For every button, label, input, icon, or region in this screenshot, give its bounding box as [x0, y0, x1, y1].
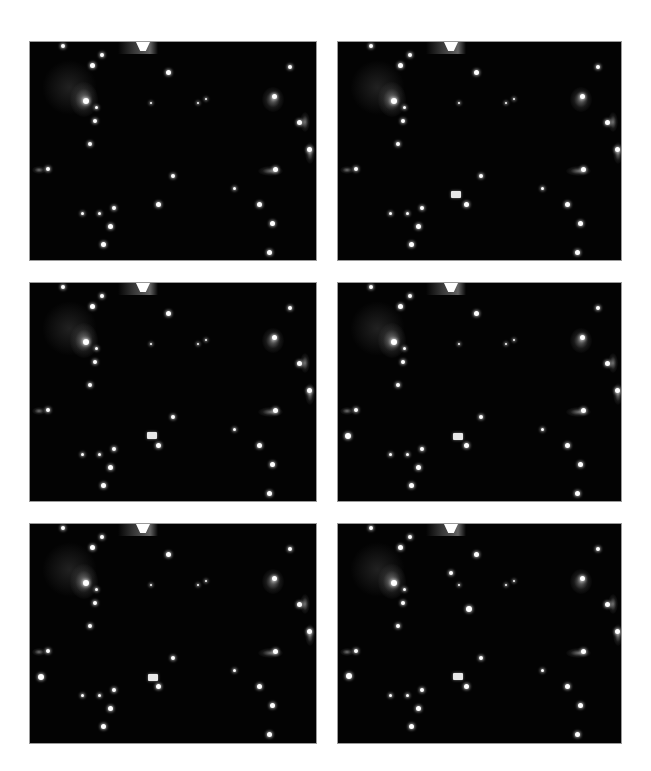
- light-spot: [297, 361, 302, 366]
- light-spot: [112, 206, 116, 210]
- light-spot: [108, 706, 113, 711]
- image-panel-5: [30, 524, 316, 743]
- light-spot: [396, 383, 400, 387]
- light-spot: [100, 535, 104, 539]
- light-spot: [406, 694, 409, 697]
- light-spot: [98, 212, 101, 215]
- light-spot: [270, 703, 275, 708]
- light-spot: [108, 224, 113, 229]
- light-spot: [112, 447, 116, 451]
- light-spot: [233, 428, 236, 431]
- light-spot: [101, 483, 106, 488]
- light-spot: [406, 453, 409, 456]
- extra-light-spot: [147, 432, 157, 439]
- extra-light-spot: [453, 673, 463, 680]
- light-spot: [458, 102, 460, 104]
- light-glow: [613, 383, 621, 405]
- light-spot: [273, 408, 278, 413]
- light-spot: [83, 580, 89, 586]
- light-spot: [90, 63, 95, 68]
- light-spot: [272, 576, 277, 581]
- light-glow: [570, 87, 592, 112]
- extra-light-spot: [148, 674, 158, 681]
- light-glow: [566, 166, 591, 176]
- light-spot: [267, 250, 272, 255]
- light-spot: [505, 343, 507, 345]
- light-spot: [108, 465, 113, 470]
- light-spot: [580, 94, 585, 99]
- light-spot: [565, 443, 570, 448]
- light-spot: [403, 106, 406, 109]
- light-spot: [409, 724, 414, 729]
- light-spot: [273, 167, 278, 172]
- light-glow: [258, 166, 283, 176]
- light-spot: [101, 242, 106, 247]
- light-spot: [605, 602, 610, 607]
- light-spot: [93, 601, 97, 605]
- light-spot: [98, 694, 101, 697]
- light-spot: [479, 174, 483, 178]
- light-spot: [156, 202, 161, 207]
- light-spot: [416, 706, 421, 711]
- light-spot: [513, 339, 515, 341]
- light-spot: [257, 443, 262, 448]
- light-spot: [205, 580, 207, 582]
- light-glow: [300, 594, 310, 614]
- light-spot: [150, 584, 152, 586]
- light-spot: [197, 584, 199, 586]
- light-spot: [272, 94, 277, 99]
- light-spot: [90, 545, 95, 550]
- image-panel-6: [338, 524, 621, 743]
- light-spot: [83, 98, 89, 104]
- light-spot: [416, 224, 421, 229]
- light-spot: [46, 649, 50, 653]
- light-glow: [570, 569, 592, 594]
- light-glow: [566, 407, 591, 417]
- light-spot: [81, 694, 84, 697]
- light-glow: [300, 112, 310, 132]
- light-spot: [93, 119, 97, 123]
- light-glow: [340, 407, 354, 415]
- light-spot: [166, 311, 171, 316]
- extra-light-spot: [466, 606, 472, 612]
- light-spot: [396, 142, 400, 146]
- light-glow: [608, 353, 618, 373]
- light-spot: [458, 584, 460, 586]
- light-glow: [608, 112, 618, 132]
- light-spot: [46, 408, 50, 412]
- light-spot: [403, 347, 406, 350]
- light-spot: [391, 339, 397, 345]
- light-spot: [464, 684, 469, 689]
- light-spot: [581, 408, 586, 413]
- light-glow: [32, 648, 46, 656]
- light-glow: [566, 648, 591, 658]
- light-spot: [596, 65, 600, 69]
- light-spot: [398, 304, 403, 309]
- light-spot: [578, 221, 583, 226]
- light-glow: [300, 353, 310, 373]
- light-spot: [354, 649, 358, 653]
- light-spot: [270, 221, 275, 226]
- light-spot: [474, 552, 479, 557]
- light-spot: [391, 580, 397, 586]
- light-spot: [369, 44, 373, 48]
- light-spot: [61, 44, 65, 48]
- light-spot: [270, 462, 275, 467]
- light-spot: [171, 415, 175, 419]
- light-glow: [340, 166, 354, 174]
- light-spot: [297, 120, 302, 125]
- light-spot: [112, 688, 116, 692]
- light-spot: [369, 526, 373, 530]
- light-spot: [197, 102, 199, 104]
- light-spot: [90, 304, 95, 309]
- light-spot: [541, 669, 544, 672]
- light-spot: [197, 343, 199, 345]
- light-spot: [479, 656, 483, 660]
- light-glow: [258, 407, 283, 417]
- light-glow: [570, 328, 592, 353]
- light-spot: [391, 98, 397, 104]
- light-glow: [262, 87, 284, 112]
- light-spot: [100, 53, 104, 57]
- extra-light-spot: [38, 674, 44, 680]
- light-spot: [81, 212, 84, 215]
